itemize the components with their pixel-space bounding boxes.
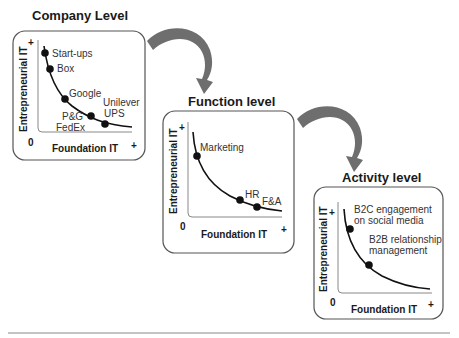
x-plus-label: + bbox=[428, 299, 434, 310]
point-label-startups: Start-ups bbox=[52, 48, 93, 59]
point-label-pg: P&G bbox=[62, 111, 83, 122]
activity-level-panel: + 0 + Foundation IT Entrepreneurial IT B… bbox=[314, 187, 443, 319]
y-axis-label: Entrepreneurial IT bbox=[168, 128, 179, 214]
x-plus-label: + bbox=[131, 140, 137, 151]
point-label-b2b-line1: B2B relationship bbox=[369, 234, 442, 245]
point-label-ups: UPS bbox=[104, 108, 125, 119]
point-label-b2b-line2: management bbox=[369, 245, 428, 256]
point-label-fa: F&A bbox=[262, 196, 282, 207]
y-axis-label: Entrepreneurial IT bbox=[318, 206, 329, 292]
y-plus-label: + bbox=[179, 122, 185, 133]
company-level-panel: + 0 + Foundation IT Entrepreneurial IT S… bbox=[13, 31, 145, 160]
point-label-fedex: FedEx bbox=[56, 122, 85, 133]
point-label-box: Box bbox=[57, 63, 74, 74]
y-axis-label: Entrepreneurial IT bbox=[18, 46, 29, 132]
x-axis-label: Foundation IT bbox=[52, 143, 118, 154]
point-label-unilever: Unilever bbox=[103, 97, 140, 108]
diagram-canvas: + 0 + Foundation IT Entrepreneurial IT S… bbox=[0, 0, 459, 338]
arrow-function-to-activity-icon bbox=[297, 106, 363, 172]
origin-label: 0 bbox=[28, 137, 34, 148]
point-label-hr: HR bbox=[245, 189, 259, 200]
x-axis-label: Foundation IT bbox=[351, 304, 417, 315]
origin-label: 0 bbox=[330, 297, 336, 308]
x-axis-label: Foundation IT bbox=[201, 229, 267, 240]
point-label-b2c-line2: on social media bbox=[354, 215, 424, 226]
point-label-marketing: Marketing bbox=[200, 142, 244, 153]
origin-label: 0 bbox=[180, 221, 186, 232]
arrow-company-to-function-icon bbox=[147, 28, 213, 94]
y-plus-label: + bbox=[28, 37, 34, 48]
x-plus-label: + bbox=[281, 224, 287, 235]
point-label-google: Google bbox=[69, 88, 102, 99]
point-label-b2c-line1: B2C engagement bbox=[354, 204, 432, 215]
function-level-panel: + 0 + Foundation IT Entrepreneurial IT M… bbox=[163, 111, 294, 253]
y-plus-label: + bbox=[329, 207, 335, 218]
